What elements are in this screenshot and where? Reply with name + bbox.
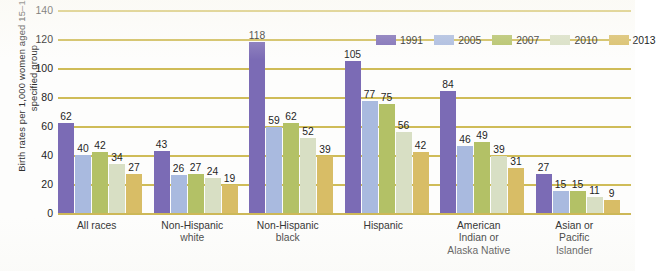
chart-legend: 19912005200720102013: [376, 32, 660, 48]
bar-value-label: 43: [156, 139, 167, 150]
bar-value-label: 62: [60, 111, 71, 122]
legend-item[interactable]: 2010: [550, 35, 597, 46]
bar[interactable]: [413, 152, 429, 213]
bar-column[interactable]: 24: [205, 10, 221, 213]
bar-value-label: 24: [207, 166, 218, 177]
bar[interactable]: [362, 101, 378, 213]
bar[interactable]: [188, 174, 204, 213]
bar[interactable]: [300, 138, 316, 213]
bar-value-label: 39: [319, 144, 330, 155]
label-line: All races: [77, 220, 116, 231]
bar[interactable]: [570, 191, 586, 213]
legend-label: 2005: [458, 35, 481, 46]
bar-value-label: 49: [476, 130, 487, 141]
bar[interactable]: [587, 197, 603, 213]
bar[interactable]: [345, 61, 361, 213]
bar-value-label: 46: [459, 134, 470, 145]
bar-value-label: 15: [555, 179, 566, 190]
bar[interactable]: [474, 142, 490, 213]
bar-column[interactable]: 40: [75, 10, 91, 213]
bar[interactable]: [75, 155, 91, 213]
bar-value-label: 15: [572, 179, 583, 190]
legend-swatch: [550, 35, 570, 45]
bar-column[interactable]: 59: [266, 10, 282, 213]
x-axis-category-label: Non-Hispanicwhite: [154, 220, 250, 268]
bar-value-label: 77: [364, 89, 375, 100]
bar[interactable]: [283, 123, 299, 213]
bar-value-label: 19: [224, 173, 235, 184]
bar-value-label: 105: [344, 49, 361, 60]
bar[interactable]: [171, 175, 187, 213]
bar[interactable]: [508, 168, 524, 213]
legend-item[interactable]: 2013: [609, 35, 656, 46]
bar[interactable]: [491, 156, 507, 213]
y-axis-tick-label: 100: [35, 62, 53, 74]
bar[interactable]: [379, 104, 395, 213]
legend-label: 2007: [516, 35, 539, 46]
bar-column[interactable]: 19: [222, 10, 238, 213]
bar-group: 6240423427: [58, 10, 154, 213]
bar-column[interactable]: 27: [126, 10, 142, 213]
label-line: Hispanic: [364, 220, 404, 231]
bar[interactable]: [536, 174, 552, 213]
bar[interactable]: [440, 91, 456, 213]
bar[interactable]: [126, 174, 142, 213]
bar-column[interactable]: 105: [345, 10, 361, 213]
bar[interactable]: [317, 156, 333, 213]
legend-item[interactable]: 2007: [492, 35, 539, 46]
label-line: Non-Hispanic: [257, 220, 319, 231]
bar-column[interactable]: 62: [283, 10, 299, 213]
bar-column[interactable]: 26: [171, 10, 187, 213]
bar-column[interactable]: 34: [109, 10, 125, 213]
bar[interactable]: [154, 151, 170, 213]
x-axis-category-label: Hispanic: [345, 220, 441, 268]
y-axis-tick-label: 140: [35, 4, 53, 16]
bar-value-label: 52: [302, 126, 313, 137]
bar-value-label: 31: [510, 156, 521, 167]
x-axis-category-labels: All racesNon-HispanicwhiteNon-Hispanicbl…: [58, 220, 631, 268]
y-axis-tick-label: 60: [41, 120, 53, 132]
legend-label: 2010: [574, 35, 597, 46]
bar-value-label: 42: [94, 140, 105, 151]
bar-column[interactable]: 42: [92, 10, 108, 213]
bar-value-label: 27: [538, 162, 549, 173]
legend-item[interactable]: 2005: [434, 35, 481, 46]
bar-column[interactable]: 43: [154, 10, 170, 213]
y-axis-tick-label: 40: [41, 149, 53, 161]
legend-label: 2013: [633, 35, 656, 46]
bar[interactable]: [58, 123, 74, 213]
bar-column[interactable]: 62: [58, 10, 74, 213]
bar[interactable]: [249, 42, 265, 213]
bar[interactable]: [266, 127, 282, 213]
bar-value-label: 62: [285, 111, 296, 122]
x-axis-baseline: [58, 213, 631, 215]
bar-column[interactable]: 39: [317, 10, 333, 213]
label-line: Alaska Native: [447, 245, 510, 256]
bar[interactable]: [205, 178, 221, 213]
x-axis-category-label: Asian orPacificIslander: [536, 220, 632, 268]
bar-column[interactable]: 27: [188, 10, 204, 213]
bar-group: 4326272419: [154, 10, 250, 213]
bar[interactable]: [553, 191, 569, 213]
bar-group: 11859625239: [249, 10, 345, 213]
bar-value-label: 27: [190, 162, 201, 173]
y-axis-tick-label: 0: [47, 207, 53, 219]
label-line: Asian or: [555, 220, 593, 231]
y-axis-tick-label: 120: [35, 33, 53, 45]
bar-column[interactable]: 118: [249, 10, 265, 213]
bar-value-label: 27: [128, 162, 139, 173]
legend-swatch: [492, 35, 512, 45]
bar[interactable]: [92, 152, 108, 213]
x-axis-category-label: All races: [58, 220, 154, 268]
bar[interactable]: [109, 164, 125, 213]
bar[interactable]: [457, 146, 473, 213]
legend-item[interactable]: 1991: [376, 35, 423, 46]
bar-column[interactable]: 52: [300, 10, 316, 213]
bar[interactable]: [222, 185, 238, 213]
bar-value-label: 26: [173, 163, 184, 174]
bar[interactable]: [396, 132, 412, 213]
bar-value-label: 39: [493, 144, 504, 155]
bar[interactable]: [604, 200, 620, 213]
bar-value-label: 84: [442, 79, 453, 90]
bar-value-label: 42: [415, 140, 426, 151]
